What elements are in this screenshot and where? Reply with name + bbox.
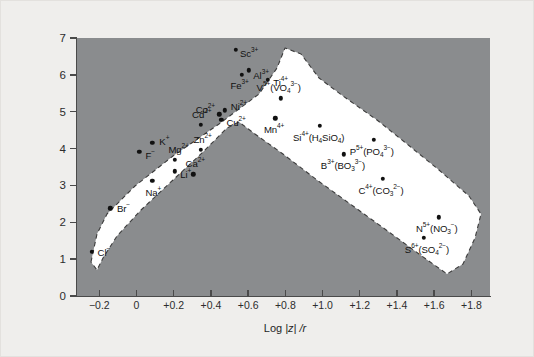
x-tick-0 [99,290,100,297]
x-axis-title-symbol: |z| /r [285,322,306,334]
data-point-label: S6+(SO42−) [405,243,449,254]
x-tick-label-1: 0 [134,299,140,311]
y-tick-label-6: 6 [44,69,66,81]
x-tick-10 [471,290,472,297]
data-point-label: Co2+ [196,104,215,115]
x-axis-title-prefix: Log [264,322,285,334]
data-point-label: Cu2+ [227,116,246,127]
y-tick-label-3: 3 [44,179,66,191]
data-point-label: Mg2+ [168,143,188,154]
x-tick-label-2: +0.2 [163,299,184,311]
y-tick-1 [70,258,77,259]
x-tick-6 [322,290,323,297]
y-tick-label-4: 4 [44,143,66,155]
x-tick-label-7: +1.2 [349,299,370,311]
y-tick-label-5: 5 [44,106,66,118]
x-tick-label-4: +0.6 [238,299,259,311]
x-tick-5 [285,290,286,297]
x-tick-4 [247,290,248,297]
data-point-label: Fe3+ [231,79,249,90]
data-point-label: Li+ [180,169,191,180]
x-tick-label-3: +0.4 [201,299,222,311]
figure-root: 01234567−0.20+0.2+0.4+0.6+0.8+1.0+1.2+1.… [0,0,534,357]
data-point-label: C4+(CO32−) [358,184,403,195]
data-point-label: Sc3+ [240,47,258,58]
x-tick-label-6: +1.0 [312,299,333,311]
data-point-label: Ca2+ [186,158,205,169]
y-tick-label-0: 0 [44,290,66,302]
y-tick-0 [70,295,77,296]
x-tick-1 [136,290,137,297]
x-axis-line [76,296,491,297]
x-tick-label-5: +0.8 [275,299,296,311]
x-tick-8 [396,290,397,297]
data-point-label: Ni2+ [231,101,247,112]
data-point-label: Na+ [145,187,161,198]
y-tick-3 [70,185,77,186]
y-tick-2 [70,222,77,223]
data-point-label: V5+(VO43−) [257,82,301,93]
data-point-label: F− [146,149,155,160]
data-point-label: Cl− [98,246,111,257]
y-tick-label-7: 7 [44,32,66,44]
data-point-label: Si4+(H4SiO4) [293,131,344,142]
x-tick-label-8: +1.4 [387,299,408,311]
x-tick-2 [173,290,174,297]
y-tick-5 [70,111,77,112]
y-tick-6 [70,74,77,75]
x-tick-label-9: +1.6 [424,299,445,311]
x-tick-9 [433,290,434,297]
data-point-label: Mn4+ [264,124,284,135]
y-tick-label-2: 2 [44,216,66,228]
x-tick-7 [359,290,360,297]
x-tick-3 [210,290,211,297]
y-tick-label-1: 1 [44,253,66,265]
x-tick-label-10: +1.8 [461,299,482,311]
data-point-label: Zn2+ [194,134,212,145]
x-tick-label-0: −0.2 [89,299,110,311]
data-point-label: B3+(BO33−) [321,160,365,171]
data-point-label: Br− [117,203,130,214]
x-axis-title: Log |z| /r [0,322,534,334]
data-point-label: N5+(NO3−) [416,223,458,234]
y-tick-4 [70,148,77,149]
data-point-label: P5+(PO43−) [350,145,394,156]
y-tick-7 [70,37,77,38]
